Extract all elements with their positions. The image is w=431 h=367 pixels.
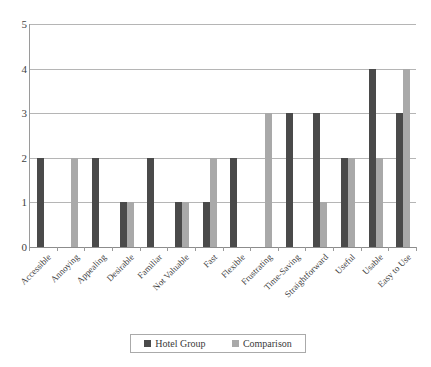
bar (120, 202, 127, 247)
bar (175, 202, 182, 247)
y-axis: 012345 (0, 24, 27, 247)
y-tick-label: 0 (3, 242, 27, 253)
y-tick-label: 5 (3, 19, 27, 30)
bar (403, 69, 410, 247)
legend-entry-hotel-group: Hotel Group (144, 339, 205, 349)
legend-label: Hotel Group (155, 339, 205, 349)
legend-label: Comparison (243, 339, 292, 349)
bar (92, 158, 99, 247)
gridline (30, 158, 416, 159)
x-tick-mark (57, 247, 58, 251)
bar (203, 202, 210, 247)
legend-swatch-icon (232, 340, 239, 347)
x-tick-mark (223, 247, 224, 251)
y-tick-label: 4 (3, 64, 27, 75)
x-tick-mark (333, 247, 334, 251)
legend-swatch-icon (144, 340, 151, 347)
x-tick-mark (140, 247, 141, 251)
y-tick-label: 3 (3, 108, 27, 119)
bar (313, 113, 320, 247)
legend-entry-comparison: Comparison (232, 339, 292, 349)
bar (210, 158, 217, 247)
bar (396, 113, 403, 247)
bar (348, 158, 355, 247)
bar (71, 158, 78, 247)
x-tick-mark (416, 247, 417, 251)
bar (182, 202, 189, 247)
x-tick-mark (29, 247, 30, 251)
x-tick-mark (361, 247, 362, 251)
x-axis-labels: AccessibleAnnoyingAppealingDesirableFami… (29, 252, 416, 314)
x-tick-mark (195, 247, 196, 251)
y-tick-label: 2 (3, 153, 27, 164)
x-tick-mark (84, 247, 85, 251)
gridline (30, 113, 416, 114)
gridline (30, 24, 416, 25)
x-tick-mark (250, 247, 251, 251)
bar (286, 113, 293, 247)
gridline (30, 202, 416, 203)
x-tick-mark (388, 247, 389, 251)
plot-area (29, 24, 416, 247)
x-tick-mark (167, 247, 168, 251)
bar-chart: 012345 AccessibleAnnoyingAppealingDesira… (0, 0, 431, 367)
chart-legend: Hotel Group Comparison (130, 334, 306, 353)
bar (369, 69, 376, 247)
bar (37, 158, 44, 247)
bar (320, 202, 327, 247)
bar (341, 158, 348, 247)
bar (265, 113, 272, 247)
x-tick-mark (305, 247, 306, 251)
bar (147, 158, 154, 247)
bar (376, 158, 383, 247)
y-tick-label: 1 (3, 197, 27, 208)
bar (127, 202, 134, 247)
x-tick-mark (112, 247, 113, 251)
gridline (30, 69, 416, 70)
x-tick-mark (278, 247, 279, 251)
bar (230, 158, 237, 247)
